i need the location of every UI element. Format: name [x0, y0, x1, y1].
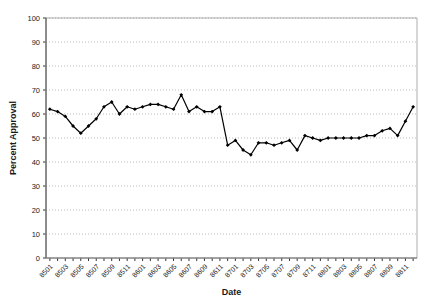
y-tick-label: 100	[27, 14, 40, 23]
y-tick-label: 30	[32, 182, 40, 191]
y-tick-label: 40	[32, 158, 40, 167]
x-axis-title: Date	[222, 287, 242, 297]
chart-canvas: 0102030405060708090100 85018503850585078…	[0, 0, 447, 303]
y-tick-label: 50	[32, 134, 40, 143]
y-tick-label: 10	[32, 230, 40, 239]
y-tick-label: 20	[32, 206, 40, 215]
approval-rating-chart: 0102030405060708090100 85018503850585078…	[0, 0, 447, 303]
y-tick-label: 90	[32, 38, 40, 47]
y-tick-label: 80	[32, 62, 40, 71]
y-tick-label: 70	[32, 86, 40, 95]
y-axis-title: Percent Approval	[8, 101, 18, 175]
y-tick-label: 0	[36, 254, 40, 263]
y-tick-label: 60	[32, 110, 40, 119]
